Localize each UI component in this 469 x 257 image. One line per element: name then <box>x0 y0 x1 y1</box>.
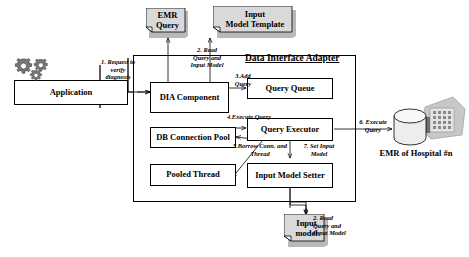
gears-icon <box>12 57 56 83</box>
input-model-doc-label: Input model <box>292 219 320 239</box>
input-model-setter-box: Input Model Setter <box>247 163 333 188</box>
emr-query-document: EMR Query <box>146 8 189 38</box>
input-model-setter-label: Input Model Setter <box>255 171 324 180</box>
db-connection-pool-label: DB Connection Pool <box>156 133 230 142</box>
pooled-thread-label: Pooled Thread <box>166 170 219 179</box>
edge-label-read-query-top: 2. Read Query and Input Model <box>178 46 236 69</box>
edge-label-execute-query-external: 6. Execute Query <box>352 118 394 133</box>
edge-label-set-input-model: 7. Set Input Model <box>295 142 343 157</box>
query-queue-label: Query Queue <box>266 84 315 93</box>
db-connection-pool-box: DB Connection Pool <box>150 127 236 148</box>
emr-query-label: EMR Query <box>153 11 182 31</box>
adapter-title: Data Interface Adapter <box>245 53 339 63</box>
edge-label-execute-query-internal: 4.Execute Query <box>227 113 295 121</box>
query-executor-label: Query Executor <box>261 125 319 134</box>
query-executor-box: Query Executor <box>247 118 333 141</box>
edge-label-borrow-conn-thread: 5.Borrow Conn. and Thread <box>225 142 295 157</box>
application-box: Application <box>14 80 128 105</box>
diagram-canvas: Data Interface Adapter EMR Query Input M… <box>0 0 469 257</box>
input-model-template-document: Input Model Template <box>213 6 297 38</box>
emr-hospital-caption: EMR of Hospital #n <box>368 148 464 158</box>
gears-icon-svg <box>12 57 56 83</box>
dia-component-label: DIA Component <box>160 93 220 102</box>
database-cylinder-svg <box>392 108 430 148</box>
database-cylinder-icon <box>392 108 430 148</box>
pooled-thread-box: Pooled Thread <box>150 164 236 186</box>
dia-component-box: DIA Component <box>150 82 229 113</box>
input-model-template-label: Input Model Template <box>223 10 288 30</box>
edge-label-read-query-bottom: 2. Read Query and Input Model <box>313 214 369 237</box>
application-label: Application <box>50 88 93 97</box>
query-queue-box: Query Queue <box>247 78 333 99</box>
edge-label-request-verify: 1. Request to verify diagnosis <box>95 58 141 81</box>
edge-label-add-query: 3.Add Query <box>228 72 258 87</box>
